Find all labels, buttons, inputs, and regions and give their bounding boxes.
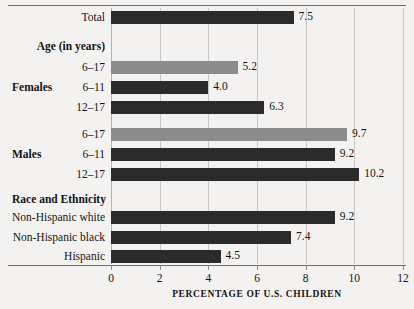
category-label: Non-Hispanic black (0, 228, 105, 247)
bar-row: Hispanic4.5 (0, 247, 414, 266)
x-tick-10 (354, 266, 355, 270)
category-label: Total (0, 8, 105, 27)
bar-row: 6–179.7 (0, 125, 414, 144)
bar-value-label: 4.5 (226, 248, 240, 263)
x-axis-title: PERCENTAGE OF U.S. CHILDREN (111, 289, 403, 299)
category-label: 12–17 (0, 98, 105, 117)
bar (111, 168, 359, 181)
section-header-row: Race and Ethnicity (0, 190, 414, 209)
bar-value-label: 4.0 (213, 79, 227, 94)
bar-row: 6–11Females4.0 (0, 78, 414, 97)
category-label: 6–17 (0, 58, 105, 77)
category-label: 12–17 (0, 165, 105, 184)
bar (111, 250, 221, 263)
group-label-females: Females (12, 78, 52, 97)
x-tick-label-2: 2 (145, 271, 175, 286)
bar-row: Non-Hispanic black7.4 (0, 228, 414, 247)
bar (111, 101, 264, 114)
section-header-label: Age (in years) (0, 37, 105, 56)
x-tick-label-8: 8 (291, 271, 321, 286)
bar-value-label: 10.2 (364, 166, 384, 181)
bar-row: Non-Hispanic white9.2 (0, 208, 414, 227)
x-tick-label-12: 12 (388, 271, 414, 286)
x-tick-8 (306, 266, 307, 270)
x-tick-label-0: 0 (96, 271, 126, 286)
bar-row: Total7.5 (0, 8, 414, 27)
section-header-label: Race and Ethnicity (12, 190, 105, 209)
bar (111, 148, 335, 161)
x-tick-4 (208, 266, 209, 270)
bar-value-label: 7.5 (299, 9, 313, 24)
bar-value-label: 9.7 (352, 126, 366, 141)
bar-row: 12–176.3 (0, 98, 414, 117)
bar-row: 6–11Males9.2 (0, 145, 414, 164)
bar (111, 81, 208, 94)
bar-chart-figure: Total7.5Age (in years)6–175.26–11Females… (0, 0, 414, 309)
category-label: Hispanic (0, 247, 105, 266)
bar-row: 6–175.2 (0, 58, 414, 77)
bar-value-label: 9.2 (340, 146, 354, 161)
top-divider-rule (8, 5, 406, 6)
bar-value-label: 7.4 (296, 229, 310, 244)
bar (111, 211, 335, 224)
group-label-males: Males (12, 145, 41, 164)
x-tick-label-6: 6 (242, 271, 272, 286)
category-label: Non-Hispanic white (0, 208, 105, 227)
x-tick-12 (403, 266, 404, 270)
x-tick-6 (257, 266, 258, 270)
x-tick-0 (111, 266, 112, 270)
bar (111, 11, 294, 24)
bar (111, 231, 291, 244)
x-tick-2 (160, 266, 161, 270)
bar-value-label: 9.2 (340, 209, 354, 224)
bar (111, 61, 238, 74)
x-tick-label-4: 4 (193, 271, 223, 286)
bar-row: 12–1710.2 (0, 165, 414, 184)
bar (111, 128, 347, 141)
category-label: 6–17 (0, 125, 105, 144)
x-tick-label-10: 10 (339, 271, 369, 286)
bar-value-label: 5.2 (243, 59, 257, 74)
bar-value-label: 6.3 (269, 99, 283, 114)
section-header-row: Age (in years) (0, 37, 414, 56)
